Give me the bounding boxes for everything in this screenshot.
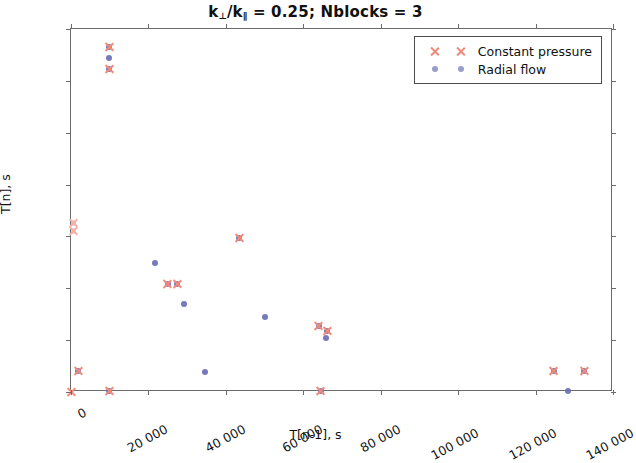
y-tick	[66, 185, 71, 186]
legend-marker-cross-pair	[422, 44, 474, 58]
chart-title-k-perp: k	[208, 3, 218, 21]
x-tick	[536, 390, 537, 395]
data-point-radial-flow	[181, 301, 187, 307]
legend: Constant pressure Radial flow	[414, 36, 602, 84]
x-tick	[148, 24, 149, 29]
data-point-radial-flow	[152, 260, 158, 266]
data-point-constant-pressure	[72, 366, 83, 377]
y-tick	[611, 288, 616, 289]
y-tick	[66, 29, 71, 30]
x-tick	[226, 390, 227, 395]
data-point-constant-pressure	[321, 326, 332, 337]
chart-title: k⊥/k∥ = 0.25; Nblocks = 3	[0, 3, 631, 21]
x-tick	[536, 24, 537, 29]
x-tick	[71, 390, 72, 395]
y-tick	[611, 29, 616, 30]
x-tick	[613, 390, 614, 395]
y-tick	[66, 236, 71, 237]
data-point-constant-pressure	[103, 385, 114, 396]
legend-label: Radial flow	[474, 62, 546, 77]
x-tick	[71, 24, 72, 29]
y-tick	[66, 288, 71, 289]
y-tick	[611, 185, 616, 186]
data-point-constant-pressure	[548, 366, 559, 377]
chart-title-sub-perp: ⊥	[218, 11, 226, 21]
legend-marker-dot-pair	[422, 62, 474, 76]
data-point-radial-flow	[262, 314, 268, 320]
dot-marker-icon	[432, 66, 438, 72]
y-tick	[611, 81, 616, 82]
data-point-radial-flow	[565, 388, 571, 394]
x-tick-label: 0	[75, 405, 89, 422]
data-point-constant-pressure	[172, 279, 183, 290]
chart-title-slash-k: /k	[227, 3, 243, 21]
x-tick	[303, 390, 304, 395]
y-tick	[611, 133, 616, 134]
y-tick	[66, 340, 71, 341]
y-tick	[611, 236, 616, 237]
y-tick	[66, 133, 71, 134]
x-tick	[148, 390, 149, 395]
chart-title-tail: = 0.25; Nblocks = 3	[247, 3, 422, 21]
y-tick	[66, 81, 71, 82]
cross-marker-icon	[429, 46, 440, 57]
legend-label: Constant pressure	[474, 44, 592, 59]
x-tick	[613, 24, 614, 29]
x-tick	[381, 24, 382, 29]
x-tick	[381, 390, 382, 395]
dot-marker-icon	[458, 66, 464, 72]
y-tick	[611, 340, 616, 341]
plot-area: Constant pressure Radial flow 020 00040 …	[70, 28, 612, 391]
data-point-radial-flow	[106, 55, 112, 61]
data-point-constant-pressure	[103, 42, 114, 53]
data-point-constant-pressure	[315, 385, 326, 396]
data-point-constant-pressure	[103, 64, 114, 75]
y-axis-title: T[n], s	[0, 174, 13, 214]
x-tick	[458, 390, 459, 395]
data-point-constant-pressure	[234, 232, 245, 243]
x-tick	[226, 24, 227, 29]
x-tick	[458, 24, 459, 29]
data-point-constant-pressure	[68, 226, 79, 237]
data-point-constant-pressure	[578, 366, 589, 377]
legend-item-radial-flow: Radial flow	[422, 60, 592, 78]
cross-marker-icon	[455, 46, 466, 57]
legend-item-constant-pressure: Constant pressure	[422, 42, 592, 60]
data-point-radial-flow	[202, 369, 208, 375]
x-tick	[303, 24, 304, 29]
